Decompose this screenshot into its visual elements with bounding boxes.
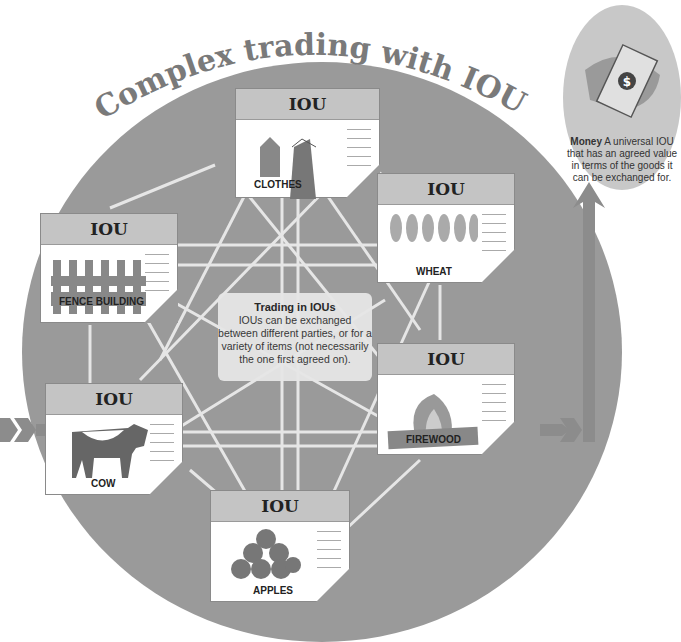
- center-body: IOUs can be exchanged between different …: [218, 314, 372, 365]
- iou-header: IOU: [46, 384, 182, 415]
- apples-icon: [231, 525, 301, 581]
- money-hand-icon: $: [580, 30, 670, 130]
- iou-card-firewood: IOU FIREWOOD: [377, 343, 515, 455]
- iou-card-wheat: IOU WHEAT: [377, 173, 515, 283]
- cow-icon: [64, 420, 154, 478]
- iou-header: IOU: [378, 344, 514, 375]
- iou-header: IOU: [211, 491, 349, 522]
- money-description: Money A universal IOU that has an agreed…: [566, 136, 678, 184]
- iou-header: IOU: [41, 214, 177, 245]
- iou-header: IOU: [236, 89, 379, 120]
- iou-card-apples: IOU APPLES: [210, 490, 350, 602]
- iou-card-clothes: IOU CLOTHES: [235, 88, 380, 198]
- iou-card-fence-building: IOU FENCE BUILDING: [40, 213, 178, 323]
- svg-text:$: $: [623, 75, 631, 89]
- center-explanation: Trading in IOUs IOUs can be exchanged be…: [218, 293, 372, 381]
- money-heading: Money: [570, 136, 602, 147]
- fire-icon: [386, 394, 481, 454]
- iou-card-cow: IOU COW: [45, 383, 183, 495]
- wheat-icon: [386, 210, 478, 266]
- center-heading: Trading in IOUs: [218, 301, 372, 314]
- iou-header: IOU: [378, 174, 514, 205]
